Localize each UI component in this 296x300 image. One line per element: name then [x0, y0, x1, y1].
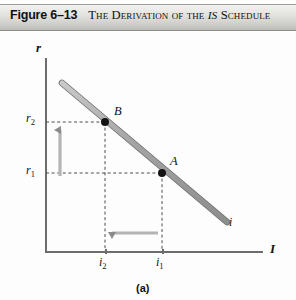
figure-number: Figure 6–13: [10, 8, 77, 22]
annotation-arrows: [60, 130, 158, 233]
chart-plot-area: r I r2 r1 i2 i1: [0, 30, 296, 300]
data-point-a-label: A: [170, 154, 178, 169]
figure-title-italic: IS: [208, 9, 218, 21]
figure-header-banner: Figure 6–13 The Derivation of the IS Sch…: [0, 4, 296, 31]
panel-label: (a): [136, 282, 149, 294]
data-point-b-label: B: [114, 104, 122, 119]
figure-title: The Derivation of the IS Schedule: [88, 8, 270, 23]
data-point-b-marker: [101, 118, 109, 126]
data-point-a-marker: [158, 169, 166, 177]
figure-container: Figure 6–13 The Derivation of the IS Sch…: [0, 0, 296, 300]
figure-header-text: Figure 6–13 The Derivation of the IS Sch…: [10, 8, 292, 23]
figure-title-prefix: The Derivation of the: [88, 8, 207, 22]
investment-schedule-curve: [62, 83, 227, 222]
curve-label-i: i: [229, 216, 232, 228]
figure-title-suffix: Schedule: [217, 8, 270, 22]
chart-vector-layer: [0, 30, 296, 300]
